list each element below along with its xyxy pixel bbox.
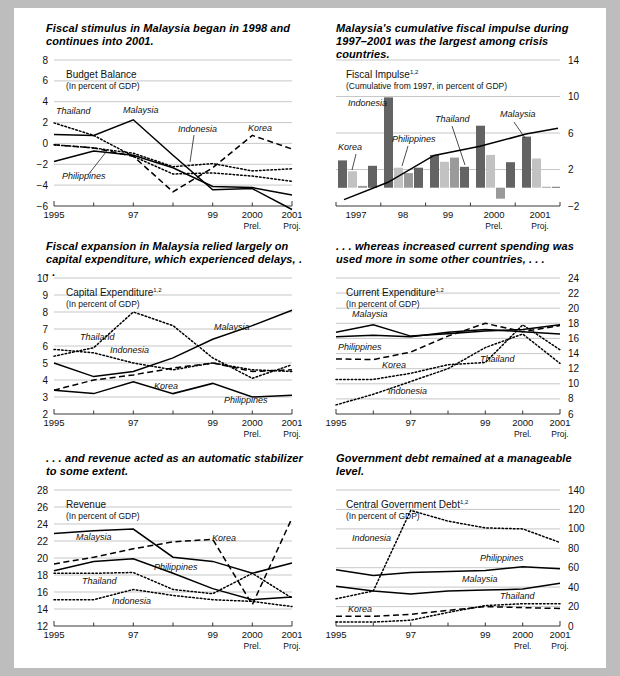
svg-text:14: 14 bbox=[37, 604, 49, 615]
svg-text:Prel.: Prel. bbox=[514, 641, 531, 651]
svg-text:Prel.: Prel. bbox=[244, 221, 261, 231]
chart-capital-expenditure: 10 9 8 7 6 5 4 3 2 Capital Expenditure1,… bbox=[26, 272, 302, 447]
svg-text:2001: 2001 bbox=[281, 629, 302, 640]
panel-central-government-debt: Government debt remained at a manageable… bbox=[336, 452, 596, 657]
y-axis-labels: 8 6 4 2 0 −2 −4 −6 bbox=[37, 55, 49, 212]
svg-text:28: 28 bbox=[37, 485, 49, 496]
svg-text:97: 97 bbox=[128, 209, 139, 220]
svg-text:24: 24 bbox=[568, 273, 580, 284]
svg-text:18: 18 bbox=[37, 570, 49, 581]
svg-text:Thailand: Thailand bbox=[435, 114, 471, 124]
svg-text:Proj.: Proj. bbox=[531, 221, 548, 231]
svg-text:Malaysia: Malaysia bbox=[123, 105, 159, 115]
svg-text:22: 22 bbox=[568, 288, 580, 299]
svg-text:20: 20 bbox=[37, 553, 49, 564]
x-axis bbox=[54, 409, 292, 414]
svg-text:Korea: Korea bbox=[212, 533, 236, 543]
svg-text:16: 16 bbox=[568, 333, 580, 344]
svg-text:Malaysia: Malaysia bbox=[500, 109, 536, 119]
chart-subtitle: Revenue (In percent of GDP) bbox=[66, 499, 140, 521]
svg-text:80: 80 bbox=[568, 543, 580, 554]
svg-text:−4: −4 bbox=[37, 180, 49, 191]
x-axis bbox=[54, 201, 292, 206]
svg-text:Indonesia: Indonesia bbox=[352, 533, 391, 543]
svg-text:(In percent of GDP): (In percent of GDP) bbox=[66, 81, 140, 91]
chart-revenue: 28 26 24 22 20 18 16 14 12 Revenue (In p… bbox=[26, 484, 302, 662]
panel-revenue: . . . and revenue acted as an automatic … bbox=[46, 452, 316, 657]
svg-text:24: 24 bbox=[37, 519, 49, 530]
x-axis-labels: 1995 97 99 2000 Prel. 2001 Proj. bbox=[325, 417, 570, 439]
svg-text:10: 10 bbox=[37, 273, 49, 284]
svg-text:Korea: Korea bbox=[248, 123, 272, 133]
svg-text:Current Expenditure1,2: Current Expenditure1,2 bbox=[346, 287, 445, 298]
svg-text:99: 99 bbox=[207, 209, 218, 220]
svg-text:97: 97 bbox=[128, 629, 139, 640]
svg-text:Proj.: Proj. bbox=[551, 641, 568, 651]
x-axis bbox=[54, 621, 292, 626]
x-axis-labels: 1995 97 99 2000 Prel. 2001 Proj. bbox=[43, 417, 302, 439]
svg-text:Thailand: Thailand bbox=[82, 576, 118, 586]
svg-text:8: 8 bbox=[568, 393, 574, 404]
svg-text:2000: 2000 bbox=[512, 629, 533, 640]
svg-text:Korea: Korea bbox=[154, 381, 178, 391]
series-lines bbox=[336, 323, 560, 405]
svg-text:2: 2 bbox=[42, 117, 48, 128]
svg-text:140: 140 bbox=[568, 485, 585, 496]
svg-text:Philippines: Philippines bbox=[62, 171, 106, 181]
y-axis-labels: 140 120 100 80 60 40 20 0 bbox=[568, 485, 585, 632]
svg-text:99: 99 bbox=[207, 417, 218, 428]
svg-text:2000: 2000 bbox=[242, 209, 263, 220]
svg-text:Philippines: Philippines bbox=[224, 395, 268, 405]
chart-subtitle: Budget Balance (In percent of GDP) bbox=[66, 69, 140, 91]
svg-text:26: 26 bbox=[37, 502, 49, 513]
svg-text:Prel.: Prel. bbox=[244, 429, 261, 439]
svg-text:2000: 2000 bbox=[483, 209, 504, 220]
svg-text:−2: −2 bbox=[568, 201, 580, 212]
svg-text:8: 8 bbox=[42, 55, 48, 66]
svg-text:10: 10 bbox=[568, 91, 580, 102]
svg-text:40: 40 bbox=[568, 582, 580, 593]
svg-text:120: 120 bbox=[568, 504, 585, 515]
svg-text:(In percent of GDP): (In percent of GDP) bbox=[66, 511, 140, 521]
chart-subtitle: Fiscal Impulse1,2 (Cumulative from 1997,… bbox=[346, 69, 507, 91]
series-annotations: Malaysia Philippines Korea Thailand Indo… bbox=[338, 309, 516, 396]
svg-text:4: 4 bbox=[42, 96, 48, 107]
svg-text:Thailand: Thailand bbox=[56, 106, 92, 116]
svg-text:99: 99 bbox=[207, 629, 218, 640]
chart-central-government-debt: 140 120 100 80 60 40 20 0 Central Govern… bbox=[322, 484, 598, 662]
y-axis-labels: 10 9 8 7 6 5 4 3 2 bbox=[37, 273, 49, 420]
svg-text:Proj.: Proj. bbox=[551, 429, 568, 439]
panel-grid: Fiscal stimulus in Malaysia began in 199… bbox=[14, 8, 606, 668]
svg-text:10: 10 bbox=[568, 378, 580, 389]
svg-text:20: 20 bbox=[568, 601, 580, 612]
svg-text:2001: 2001 bbox=[281, 417, 302, 428]
svg-text:2001: 2001 bbox=[549, 629, 570, 640]
svg-text:Malaysia: Malaysia bbox=[462, 574, 498, 584]
svg-text:Indonesia: Indonesia bbox=[110, 345, 149, 355]
y-axis-labels: 14 10 6 2 −2 bbox=[568, 55, 580, 212]
figure-page: Fiscal stimulus in Malaysia began in 199… bbox=[14, 8, 606, 668]
svg-text:Korea: Korea bbox=[338, 142, 362, 152]
x-axis-labels: 1995 97 99 2000 Prel. 2001 Proj. bbox=[325, 629, 570, 651]
chart-subtitle: Current Expenditure1,2 (In percent of GD… bbox=[346, 287, 445, 309]
svg-text:(In percent of GDP): (In percent of GDP) bbox=[66, 299, 140, 309]
svg-text:2001: 2001 bbox=[529, 209, 550, 220]
svg-text:Thailand: Thailand bbox=[80, 332, 116, 342]
svg-text:Indonesia: Indonesia bbox=[348, 98, 387, 108]
svg-text:2000: 2000 bbox=[242, 417, 263, 428]
svg-text:16: 16 bbox=[37, 587, 49, 598]
series-annotations: Malaysia Korea Philippines Thailand Indo… bbox=[76, 532, 236, 606]
svg-text:Thailand: Thailand bbox=[480, 354, 516, 364]
svg-text:Proj.: Proj. bbox=[283, 221, 300, 231]
panel-title: . . . and revenue acted as an automatic … bbox=[46, 452, 308, 478]
svg-text:7: 7 bbox=[42, 324, 48, 335]
svg-text:2001: 2001 bbox=[281, 209, 302, 220]
svg-text:2001: 2001 bbox=[549, 417, 570, 428]
svg-text:1995: 1995 bbox=[325, 417, 346, 428]
svg-text:Central Government Debt1,2: Central Government Debt1,2 bbox=[346, 499, 469, 510]
svg-text:(In percent of GDP): (In percent of GDP) bbox=[346, 299, 420, 309]
svg-text:1995: 1995 bbox=[43, 417, 64, 428]
svg-text:Indonesia: Indonesia bbox=[112, 596, 151, 606]
x-axis-labels: 1997 98 99 2000 Prel. 2001 Proj. bbox=[345, 209, 550, 231]
panel-current-expenditure: . . . whereas increased current spending… bbox=[336, 240, 596, 440]
